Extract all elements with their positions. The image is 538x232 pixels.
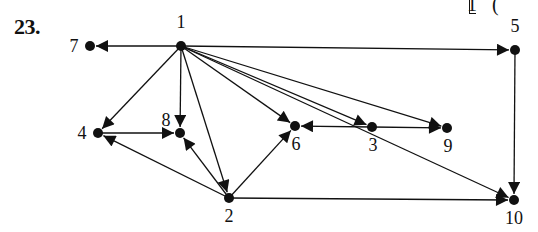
edge-3-to-6 [301,126,372,127]
edge-1-to-8 [180,46,181,127]
node-5 [510,45,520,55]
edge-2-to-8 [184,138,229,198]
node-label-8: 8 [162,110,171,130]
edge-1-to-9 [181,46,441,126]
node-label-6: 6 [292,134,301,154]
node-label-3: 3 [369,135,378,155]
node-label-2: 2 [225,206,234,226]
node-label-10: 10 [505,208,523,228]
edge-layer [96,46,515,200]
edge-1-to-5 [181,46,509,50]
directed-graph: 12345678910 [0,0,538,232]
node-6 [290,121,300,131]
node-label-9: 9 [444,136,453,156]
label-layer: 12345678910 [70,12,524,228]
edge-1-to-10 [181,46,509,198]
edge-2-to-10 [229,198,508,200]
edge-3-to-9 [372,127,441,128]
edge-5-to-10 [514,50,515,194]
node-label-5: 5 [511,16,520,36]
edge-1-to-6 [181,46,290,123]
edge-1-to-2 [181,46,227,192]
edge-1-to-3 [181,46,367,125]
node-4 [93,128,103,138]
node-label-7: 7 [70,36,79,56]
node-layer [85,41,520,205]
edge-2-to-4 [103,136,229,198]
edge-2-to-6 [229,130,291,198]
node-10 [509,195,519,205]
node-1 [176,41,186,51]
node-7 [85,41,95,51]
node-label-1: 1 [177,12,186,32]
node-2 [224,193,234,203]
node-9 [442,123,452,133]
node-3 [367,122,377,132]
node-8 [175,128,185,138]
node-label-4: 4 [78,123,87,143]
